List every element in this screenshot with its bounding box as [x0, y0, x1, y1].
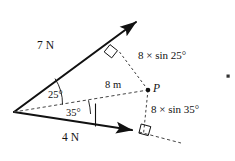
upper-force-vector	[14, 22, 136, 112]
perpendicular-lower-dashed	[144, 90, 149, 134]
right-angle-mark-upper	[104, 45, 117, 58]
distance-line-dashed	[14, 90, 148, 112]
label-perp-upper-expression: 8 × sin 25°	[138, 50, 186, 61]
label-upper-force: 7 N	[37, 40, 54, 52]
label-angle-35: 35°	[66, 108, 81, 119]
upper-force-arrow	[14, 22, 136, 112]
label-lower-force: 4 N	[62, 132, 79, 144]
lower-line-extension-dashed	[139, 132, 181, 143]
physics-diagram-figure: 7 N 4 N 25° 35° 8 m 8 × sin 25° 8 × sin …	[0, 0, 235, 161]
label-perp-lower-expression: 8 × sin 35°	[151, 104, 199, 115]
stray-speck	[227, 75, 230, 78]
angle-arc-35	[89, 100, 91, 114]
point-p-marker	[146, 88, 151, 93]
label-point-p: P	[153, 83, 160, 95]
label-angle-25: 25°	[48, 90, 63, 101]
label-distance-8m: 8 m	[105, 80, 121, 91]
